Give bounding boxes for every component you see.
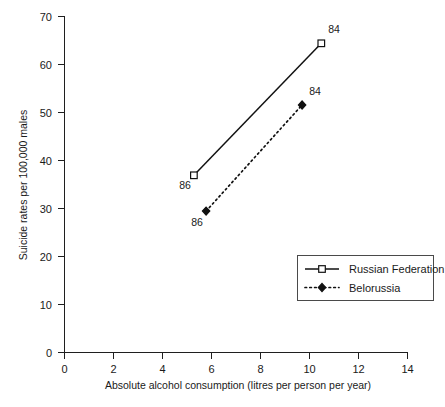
legend-open-square-icon — [319, 266, 326, 273]
x-tick-label-4: 4 — [159, 363, 165, 375]
series-belorussia: 86 84 — [191, 85, 321, 228]
data-label-russian-federation-1984: 84 — [328, 23, 340, 35]
chart-legend: Russian Federation Belorussia — [298, 256, 445, 301]
suicide-alcohol-scatter-chart: 0 10 20 30 40 50 60 70 0 2 4 6 8 10 12 — [0, 0, 445, 407]
series-line-belorussia — [206, 105, 302, 211]
data-label-belorussia-1986: 86 — [191, 216, 203, 228]
legend-label-belorussia: Belorussia — [349, 282, 401, 294]
data-label-belorussia-1984: 84 — [309, 85, 321, 97]
data-point-russian-federation-1986 — [191, 172, 198, 179]
x-tick-label-14: 14 — [401, 363, 413, 375]
x-tick-label-8: 8 — [257, 363, 263, 375]
x-tick-label-0: 0 — [61, 363, 67, 375]
series-russian-federation: 86 84 — [179, 23, 340, 191]
x-tick-label-10: 10 — [303, 363, 315, 375]
x-tick-label-6: 6 — [208, 363, 214, 375]
data-point-belorussia-1986 — [202, 207, 209, 215]
x-axis: 0 2 4 6 8 10 12 14 — [61, 353, 413, 376]
y-tick-label-60: 60 — [40, 59, 52, 71]
data-label-russian-federation-1986: 86 — [179, 179, 191, 191]
y-tick-label-30: 30 — [40, 203, 52, 215]
y-tick-label-20: 20 — [40, 251, 52, 263]
chart-canvas: 0 10 20 30 40 50 60 70 0 2 4 6 8 10 12 — [0, 0, 445, 407]
x-tick-label-2: 2 — [110, 363, 116, 375]
y-tick-label-70: 70 — [40, 11, 52, 23]
y-tick-label-10: 10 — [40, 299, 52, 311]
legend-label-russian-federation: Russian Federation — [349, 263, 444, 275]
y-tick-label-50: 50 — [40, 107, 52, 119]
y-axis-title: Suicide rates per 100,000 males — [17, 110, 29, 261]
y-tick-label-40: 40 — [40, 155, 52, 167]
y-tick-label-0: 0 — [46, 347, 52, 359]
x-tick-label-12: 12 — [352, 363, 364, 375]
y-axis: 0 10 20 30 40 50 60 70 — [40, 11, 65, 359]
data-point-russian-federation-1984 — [318, 40, 325, 47]
x-axis-title: Absolute alcohol consumption (litres per… — [105, 379, 371, 391]
